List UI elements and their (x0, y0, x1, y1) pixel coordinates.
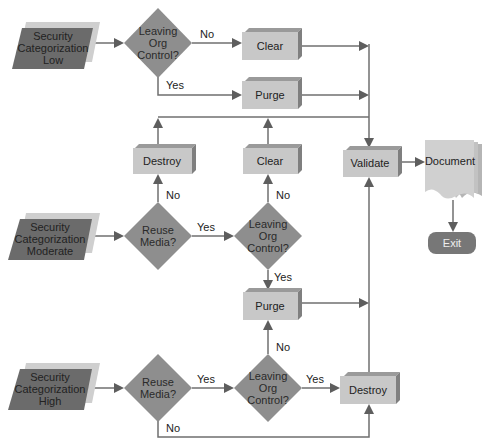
action-low-purge[interactable]: Purge (242, 77, 302, 109)
arrowhead (114, 38, 124, 48)
arrowhead (153, 174, 163, 184)
document-node[interactable]: Document (425, 140, 482, 199)
arrowhead (263, 174, 273, 184)
arrowhead (232, 38, 242, 48)
action-low-clear[interactable]: Clear (242, 28, 302, 60)
decision-label-line: Leaving (249, 370, 288, 382)
input-label-line: High (39, 395, 62, 407)
box-top (245, 144, 302, 148)
box-side (298, 144, 302, 174)
decision-high-reuse-media[interactable]: Reuse Media? (124, 354, 192, 422)
decision-mod-reuse-media[interactable]: Reuse Media? (124, 202, 192, 270)
action-mod-destroy[interactable]: Destroy (133, 144, 196, 174)
action-mod-clear[interactable]: Clear (243, 144, 302, 174)
arrowhead (263, 118, 273, 128)
box-side (192, 144, 196, 174)
action-label: Destroy (143, 155, 181, 167)
decision-label-line: Org (149, 37, 167, 49)
arrowhead (232, 90, 242, 100)
arrowhead (224, 231, 234, 241)
document-label: Document (425, 155, 475, 167)
action-label: Destroy (349, 384, 387, 396)
input-high[interactable]: Security Categorization High (8, 363, 100, 410)
edge-label-yes: Yes (306, 373, 324, 385)
arrowhead (114, 383, 124, 393)
decision-label-line: Leaving (139, 25, 178, 37)
edge-label-no: No (276, 189, 290, 201)
action-label: Validate (351, 157, 390, 169)
box-side (298, 288, 302, 320)
input-label-line: Categorization (15, 233, 86, 245)
exit-label: Exit (443, 237, 461, 249)
input-label-line: Categorization (15, 383, 86, 395)
box-top (245, 288, 302, 292)
box-side (398, 146, 402, 177)
box-side (298, 28, 302, 60)
decision-label-line: Media? (140, 236, 176, 248)
arrowhead (448, 222, 458, 232)
decision-mod-leaving-org-control[interactable]: Leaving Org Control? (234, 202, 302, 270)
edge-label-no: No (276, 341, 290, 353)
box-top (346, 146, 402, 150)
input-low[interactable]: Security Categorization Low (12, 22, 100, 69)
edge-label-yes: Yes (166, 79, 184, 91)
flowchart: Security Categorization Low Security Cat… (0, 0, 486, 440)
input-label-line: Security (30, 221, 70, 233)
edge-label-no: No (166, 189, 180, 201)
action-label: Purge (255, 89, 284, 101)
box-top (245, 28, 302, 32)
box-top (344, 372, 400, 376)
input-label-line: Low (43, 54, 63, 66)
arrowhead (330, 383, 340, 393)
decision-label-line: Control? (247, 242, 289, 254)
decision-label-line: Org (259, 382, 277, 394)
arrowhead (153, 118, 163, 128)
action-high-destroy[interactable]: Destroy (340, 372, 400, 404)
decision-label-line: Org (259, 230, 277, 242)
decision-label-line: Control? (137, 49, 179, 61)
decision-label-line: Reuse (142, 376, 174, 388)
input-label-line: Security (33, 30, 73, 42)
box-top (245, 77, 302, 81)
arrowhead (224, 383, 234, 393)
input-label-line: Categorization (18, 42, 89, 54)
arrowhead (359, 298, 369, 308)
edge-label-no: No (200, 28, 214, 40)
arrowhead (359, 90, 369, 100)
action-label: Clear (257, 155, 284, 167)
exit-node[interactable]: Exit (428, 232, 476, 254)
edge-label-no: No (166, 422, 180, 434)
input-moderate[interactable]: Security Categorization Moderate (8, 213, 100, 260)
action-label: Clear (257, 40, 284, 52)
action-label: Purge (255, 300, 284, 312)
decision-label-line: Media? (140, 388, 176, 400)
decision-low-leaving-org-control[interactable]: Leaving Org Control? (124, 8, 192, 78)
input-label-line: Moderate (27, 245, 73, 257)
document-shape (425, 140, 474, 199)
edge-label-yes: Yes (274, 271, 292, 283)
edge-label-yes: Yes (197, 373, 215, 385)
edge-label-yes: Yes (197, 221, 215, 233)
decision-label-line: Reuse (142, 224, 174, 236)
input-label-line: Security (30, 371, 70, 383)
action-mod-purge[interactable]: Purge (243, 288, 302, 320)
arrowhead (364, 177, 374, 187)
action-validate[interactable]: Validate (343, 146, 402, 177)
decision-label-line: Leaving (249, 218, 288, 230)
decision-label-line: Control? (247, 394, 289, 406)
box-top (135, 144, 196, 148)
arrowhead (263, 320, 273, 330)
arrowhead (114, 231, 124, 241)
arrowhead (359, 41, 369, 51)
box-side (396, 372, 400, 404)
arrowhead (415, 157, 425, 167)
decision-high-leaving-org-control[interactable]: Leaving Org Control? (234, 354, 302, 422)
arrowhead (364, 404, 374, 414)
box-side (298, 77, 302, 109)
